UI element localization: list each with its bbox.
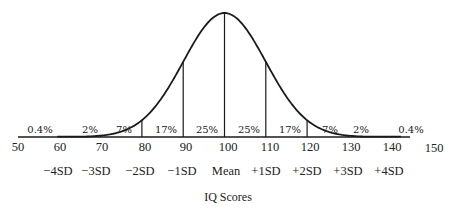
sd-label: Mean [212,164,241,178]
pct-label: 7% [322,124,338,135]
sd-label: −4SD [43,164,72,178]
sd-divider-lines [101,13,349,137]
x-tick-label: 120 [301,140,320,154]
x-tick-label: 100 [219,140,238,154]
sd-label: −3SD [81,164,110,178]
x-tick-label: 110 [261,140,279,154]
x-tick-label: 150 [425,141,444,155]
sd-label: +3SD [333,164,362,178]
normal-curve [57,13,401,137]
x-tick-label: 60 [54,140,67,154]
sd-label: −2SD [125,164,154,178]
sd-labels: −4SD −3SD −2SD −1SD Mean +1SD +2SD +3SD … [43,164,403,178]
x-tick-label: 140 [383,140,402,154]
x-tick-label: 130 [342,140,361,154]
pct-label: 7% [116,124,132,135]
x-axis-title: IQ Scores [204,190,252,204]
percentage-labels: 0.4% 2% 7% 17% 25% 25% 17% 7% 2% 0.4% [27,124,423,135]
pct-label: 25% [196,124,218,135]
pct-label: 2% [353,124,369,135]
bell-curve-chart: 0.4% 2% 7% 17% 25% 25% 17% 7% 2% 0.4% 50… [0,0,454,213]
pct-label: 0.4% [398,124,423,135]
sd-label: +2SD [292,164,321,178]
pct-label: 0.4% [27,124,52,135]
x-tick-label: 90 [180,140,193,154]
pct-label: 25% [238,124,260,135]
sd-label: +1SD [251,164,280,178]
sd-label: +4SD [374,164,403,178]
x-tick-label: 50 [12,140,25,154]
sd-label: −1SD [167,164,196,178]
pct-label: 17% [155,124,177,135]
x-tick-labels: 50 60 70 80 90 100 110 120 130 140 150 [12,140,444,155]
pct-label: 2% [82,124,98,135]
pct-label: 17% [279,124,301,135]
x-tick-label: 70 [96,140,109,154]
x-tick-label: 80 [139,140,152,154]
